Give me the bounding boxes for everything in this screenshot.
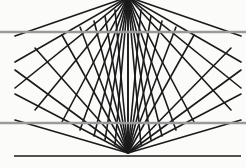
illusion-canvas: [0, 0, 246, 168]
illusion-figure: [0, 0, 246, 168]
